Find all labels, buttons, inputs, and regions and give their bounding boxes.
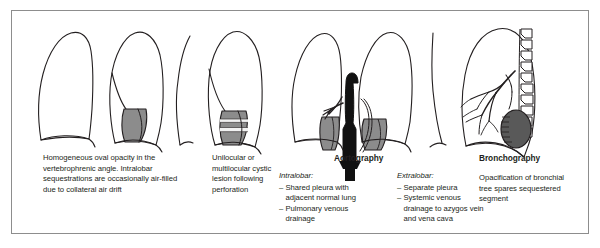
sequestration-mass-icon [362, 119, 387, 150]
mediastinal-border [209, 69, 225, 111]
bronchial-tree-icon [461, 71, 515, 135]
caption-bronchography: Opacification of bronchial tree spares s… [479, 173, 579, 205]
list-item: Separate pleura [397, 183, 489, 194]
diaphragm-line [115, 140, 162, 152]
subheading-extralobar: Extralobar: [389, 171, 489, 182]
sequestration-mass-icon [220, 111, 248, 145]
lung-outline-icon [432, 33, 442, 143]
panel-cystic-illustration [177, 32, 263, 154]
figure-frame: Homogeneous oval opacity in the vertebro… [11, 10, 589, 234]
sequestration-fissure-line [331, 117, 334, 150]
caption-intralobar: Intralobar: Shared pleura with adjacent … [279, 171, 379, 225]
diaphragm-line [41, 136, 95, 147]
list-item: Systemic venous drainage to azygos vein … [397, 193, 489, 225]
lung-outline-icon [359, 33, 412, 144]
heading-bronchography: Bronchography [479, 153, 579, 163]
lung-outline-icon [110, 32, 163, 145]
list-item: Pulmonary venous drainage [279, 204, 379, 225]
lung-outline-icon [208, 32, 262, 147]
panel-bronchography-illustration [430, 29, 535, 157]
lung-outline-icon [39, 32, 93, 140]
aorta-arch-icon [346, 73, 358, 83]
intralobar-feature-list: Shared pleura with adjacent normal lung … [279, 183, 379, 225]
panel-plain-film-illustration [39, 32, 164, 152]
lung-outline-icon [177, 36, 190, 145]
heading-aortography: Aortography [334, 153, 424, 163]
lateral-thorax-outline-icon [462, 29, 535, 157]
air-fluid-level-icon [220, 119, 248, 122]
sequestration-mass-icon [320, 117, 339, 150]
list-item: Shared pleura with adjacent normal lung [279, 183, 379, 204]
aorta-icon [343, 83, 356, 161]
caption-extralobar: Extralobar: Separate pleura Systemic ven… [389, 171, 489, 225]
diaphragm-line [430, 143, 446, 147]
mediastinal-border [112, 73, 126, 109]
sequestration-fissure-line [138, 109, 142, 142]
subheading-intralobar: Intralobar: [279, 171, 379, 182]
sequestration-hatching [501, 117, 512, 142]
diaphragm-line [295, 139, 343, 150]
sequestration-fissure-line [377, 119, 381, 150]
systemic-artery-branch-icon [323, 97, 343, 119]
caption-cystic-lesion: Unilocular or multilocular cystic lesion… [212, 153, 274, 195]
spine-anterior-line [519, 29, 520, 139]
diaphragm-line [362, 139, 411, 152]
vertebra-icon [520, 29, 533, 137]
sequestration-mass-icon [122, 109, 147, 142]
diaphragm-line [180, 142, 193, 145]
sequestration-mass-icon [501, 110, 531, 148]
air-fluid-level-icon [220, 128, 248, 132]
systemic-vein-drainage-icon [360, 99, 372, 152]
caption-plain-film: Homogeneous oval opacity in the vertebro… [43, 153, 185, 195]
extralobar-feature-list: Separate pleura Systemic venous drainage… [389, 183, 489, 225]
lung-outline-icon [292, 33, 342, 142]
